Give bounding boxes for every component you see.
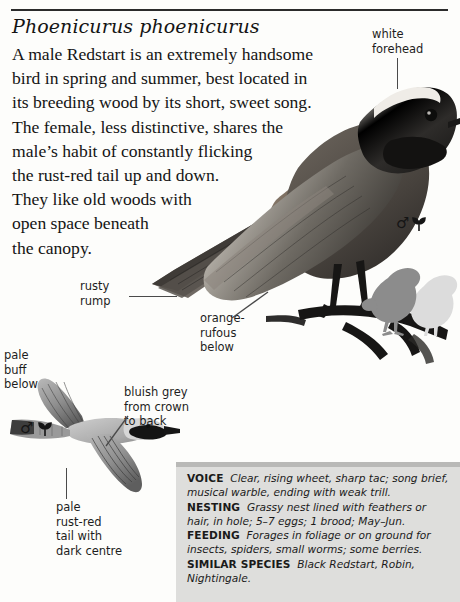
leaf-sprig-icon-perched <box>412 216 426 232</box>
annotation-line: below <box>200 340 245 355</box>
annotation-line: rust-red <box>56 515 122 530</box>
leader-line-rusty-rump <box>129 296 177 297</box>
annotation-line: buff <box>4 363 38 378</box>
annotation-line: forehead <box>372 42 423 57</box>
scientific-name: Phoenicurus phoenicurus <box>12 15 260 37</box>
annotation-line: tail with <box>56 529 122 544</box>
info-key-voice: VOICE <box>187 472 223 484</box>
species-info-box: VOICE Clear, rising wheet, sharp tac; so… <box>176 462 460 602</box>
leader-line-white-forehead <box>397 58 398 89</box>
male-symbol-icon: ♂ <box>20 419 34 437</box>
size-comparison-silhouettes <box>360 262 460 340</box>
info-entry-similar-species: SIMILAR SPECIES Black Redstart, Robin, N… <box>187 557 450 586</box>
annotation-line: to back <box>124 414 189 429</box>
header-rule <box>11 9 448 11</box>
info-entry-feeding: FEEDING Forages in foliage or on ground … <box>187 528 450 557</box>
annotation-line: rump <box>80 294 111 309</box>
leader-line-pale-rust-red-tail <box>66 468 67 499</box>
annotation-line: rusty <box>80 279 111 294</box>
field-guide-page: Phoenicurus phoenicurus A male Redstart … <box>0 0 460 602</box>
info-key-feeding: FEEDING <box>187 529 240 541</box>
info-entry-voice: VOICE Clear, rising wheet, sharp tac; so… <box>187 471 450 500</box>
annotation-white-forehead: white forehead <box>372 27 423 56</box>
male-symbol-flight: ♂ <box>20 419 34 437</box>
male-symbol-icon: ♂ <box>396 214 410 232</box>
male-symbol-perched: ♂ <box>396 214 410 232</box>
annotation-line: from crown <box>124 400 189 415</box>
silhouette-redstart <box>362 268 421 336</box>
annotation-line: pale <box>4 348 38 363</box>
silhouette-ghost <box>411 275 457 336</box>
info-entry-nesting: NESTING Grassy nest lined with feathers … <box>187 500 450 529</box>
annotation-line: bluish grey <box>124 385 189 400</box>
info-key-similar-species: SIMILAR SPECIES <box>187 558 291 570</box>
annotation-line: below <box>4 377 38 392</box>
annotation-line: white <box>372 27 423 42</box>
annotation-line: rufous <box>200 326 245 341</box>
annotation-line: dark centre <box>56 544 122 559</box>
leaf-sprig-icon-flight <box>38 421 52 437</box>
leader-line-bluish-grey <box>104 414 130 448</box>
info-key-nesting: NESTING <box>187 501 240 513</box>
annotation-rusty-rump: rusty rump <box>80 279 111 308</box>
annotation-pale-rust-red-tail: pale rust-red tail with dark centre <box>56 500 122 558</box>
annotation-pale-buff-below: pale buff below <box>4 348 38 392</box>
leader-line-orange-rufous <box>230 290 270 320</box>
annotation-bluish-grey-crown-to-back: bluish grey from crown to back <box>124 385 189 429</box>
info-value-voice: Clear, rising wheet, sharp tac; song bri… <box>187 472 448 498</box>
annotation-line: pale <box>56 500 122 515</box>
